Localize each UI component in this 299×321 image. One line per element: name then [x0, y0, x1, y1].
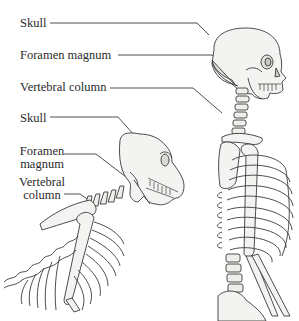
- leader-ape-skull: [50, 117, 135, 136]
- human-skeleton: [212, 28, 293, 321]
- ape-skeleton: [4, 133, 184, 312]
- leader-human-vertebral: [110, 88, 222, 113]
- leader-human-skull: [50, 23, 209, 35]
- leader-lines-human: [50, 23, 236, 113]
- leader-ape-vertebral: [64, 194, 90, 201]
- skeleton-illustration: [0, 0, 299, 321]
